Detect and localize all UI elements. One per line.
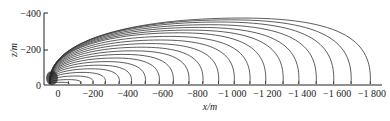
x-tick-label: −1 200 [253, 88, 281, 99]
x-tick-label: −200 [83, 88, 104, 99]
y-tick-label: −400 [20, 8, 41, 19]
chart-plot: 0−200−400 0−200−400−600−800−1 000−1 200−… [0, 0, 390, 121]
x-axis-label: x/m [202, 101, 217, 112]
x-tick-label: −1 400 [288, 88, 316, 99]
y-tick-label: 0 [36, 80, 41, 91]
trajectory-curve [50, 27, 299, 84]
x-tick-label: −1 600 [323, 88, 351, 99]
y-tick-label: −200 [20, 44, 41, 55]
trajectory-curve [50, 20, 351, 84]
trajectory-curve [50, 30, 283, 84]
x-tick-labels: 0−200−400−600−800−1 000−1 200−1 400−1 60… [56, 88, 387, 99]
x-tick-label: 0 [56, 88, 61, 99]
x-tick-label: −1 800 [358, 88, 386, 99]
y-tick-labels: 0−200−400 [20, 8, 41, 91]
x-tick-label: −800 [187, 88, 208, 99]
x-tick-label: −400 [117, 88, 138, 99]
y-axis-label: z/m [8, 43, 19, 58]
x-tick-label: −600 [152, 88, 173, 99]
origin-cluster [46, 71, 58, 85]
x-tick-label: −1 000 [218, 88, 246, 99]
trajectory-curves [46, 18, 370, 85]
